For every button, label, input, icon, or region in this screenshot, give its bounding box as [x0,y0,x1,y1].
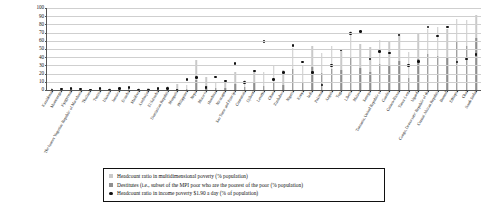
legend-label: Headcount ratio in income poverty $1.90 … [117,190,258,196]
income-poverty-dot [398,34,401,37]
legend-label: Destitutes (i.e., subset of the MPI poor… [117,182,303,188]
destitute-bar [466,46,468,90]
income-poverty-dot [446,26,449,29]
y-tick-label: 50 [39,46,44,51]
y-tick-mark [45,16,47,17]
y-tick-label: 40 [39,55,44,60]
y-tick-mark [45,82,47,83]
gridline [47,24,481,25]
y-tick-mark [45,49,47,50]
gridline [47,65,481,66]
y-tick-mark [45,33,47,34]
y-tick-label: 10 [39,79,44,84]
income-poverty-dot [214,76,217,79]
gridline [47,16,481,17]
income-poverty-dot [417,60,420,63]
destitute-bar [427,54,429,90]
gridline [47,49,481,50]
income-poverty-dot [427,26,430,29]
income-poverty-dot [301,61,304,64]
y-tick-label: 30 [39,63,44,68]
mpi-bar-swatch [109,174,113,178]
y-tick-label: 100 [37,5,44,10]
poverty-chart: 0102030405060708090100 KazakhstanMontene… [0,0,486,219]
income-poverty-dot [292,44,295,47]
y-tick-label: 70 [39,30,44,35]
gridline [47,8,481,9]
y-axis-tick-labels: 0102030405060708090100 [24,8,44,90]
income-poverty-dot-swatch [109,192,112,195]
x-axis-category-labels: KazakhstanMontenegroKyrgyzstanThe former… [46,90,480,160]
y-tick-mark [45,24,47,25]
y-tick-mark [45,8,47,9]
y-tick-mark [45,65,47,66]
legend-item-mpi: Headcount ratio in multidimensional pove… [109,172,379,181]
y-tick-label: 20 [39,71,44,76]
y-tick-label: 60 [39,38,44,43]
legend-label: Headcount ratio in multidimensional pove… [117,173,248,179]
legend-item-destitutes: Destitutes (i.e., subset of the MPI poor… [109,181,379,190]
income-poverty-dot [378,50,381,53]
chart-legend: Headcount ratio in multidimensional pove… [103,168,385,202]
destitute-bar-swatch [109,183,113,187]
y-tick-mark [45,57,47,58]
legend-item-income-poverty: Headcount ratio in income poverty $1.90 … [109,189,379,198]
y-tick-mark [45,41,47,42]
y-tick-label: 0 [42,87,45,92]
plot-area: 0102030405060708090100 KazakhstanMontene… [0,0,486,160]
y-tick-mark [45,74,47,75]
income-poverty-dot [436,35,439,38]
gridline [47,57,481,58]
y-tick-label: 90 [39,14,44,19]
income-poverty-dot [475,53,478,56]
y-tick-label: 80 [39,22,44,27]
